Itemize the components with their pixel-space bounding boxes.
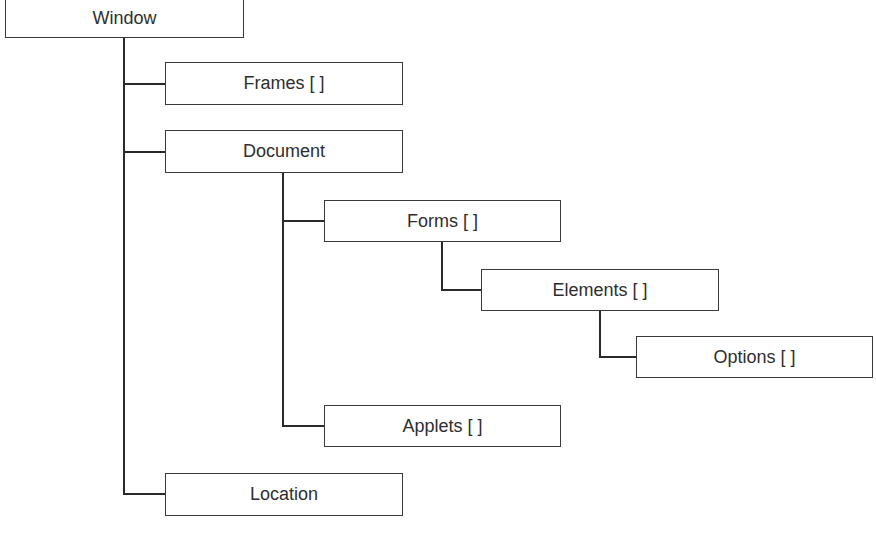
node-window: Window	[5, 0, 244, 38]
node-label: Frames [ ]	[243, 73, 324, 94]
node-document: Document	[165, 130, 403, 173]
node-location: Location	[165, 473, 403, 516]
node-label: Forms [ ]	[407, 211, 478, 232]
node-label: Applets [ ]	[402, 416, 482, 437]
node-options: Options [ ]	[636, 336, 873, 378]
node-label: Location	[250, 484, 318, 505]
node-forms: Forms [ ]	[324, 200, 561, 242]
node-label: Document	[243, 141, 325, 162]
node-label: Window	[92, 8, 156, 29]
connector-forms	[282, 220, 325, 222]
connector-elements	[441, 289, 482, 291]
node-frames: Frames [ ]	[165, 62, 403, 105]
node-label: Elements [ ]	[552, 280, 647, 301]
connector-document	[123, 151, 166, 153]
node-label: Options [ ]	[713, 347, 795, 368]
trunk-document	[282, 173, 284, 427]
trunk-forms	[441, 242, 443, 291]
connector-applets	[282, 425, 325, 427]
trunk-window	[123, 37, 125, 494]
connector-frames	[123, 83, 166, 85]
node-elements: Elements [ ]	[481, 269, 719, 311]
connector-location	[123, 493, 166, 495]
trunk-elements	[599, 311, 601, 358]
connector-options	[599, 356, 637, 358]
node-applets: Applets [ ]	[324, 405, 561, 447]
